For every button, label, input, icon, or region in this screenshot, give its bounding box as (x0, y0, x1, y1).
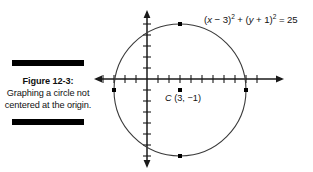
center-label-coordinates: (3, −1) (174, 93, 201, 103)
center-label-letter: C (165, 93, 172, 103)
point-bottom (178, 154, 182, 158)
y-axis-top-arrow (144, 10, 151, 18)
x-axis-right-arrow (276, 76, 284, 83)
x-axis-left-arrow (94, 76, 102, 83)
point-right (244, 88, 248, 92)
axes-group (94, 10, 284, 168)
equation-minus-h: − 3) (212, 14, 231, 25)
caption-rule-top (12, 60, 84, 66)
center-point-label: C (3, −1) (165, 93, 201, 103)
equation-plus-k: + 1) (253, 14, 272, 25)
caption-text: Figure 12-3: Graphing a circle not cente… (0, 75, 96, 111)
plotted-points (112, 22, 248, 158)
point-left (112, 88, 116, 92)
figure-caption-block: Figure 12-3: Graphing a circle not cente… (0, 60, 96, 125)
equation-equals-value: = 25 (276, 14, 297, 25)
circle-equation-label: (x − 3)2 + (y + 1)2 = 25 (204, 14, 298, 25)
y-axis-bottom-arrow (144, 160, 151, 168)
figure-screenshot: Figure 12-3: Graphing a circle not cente… (0, 0, 313, 172)
caption-rule-bottom (12, 119, 84, 125)
coordinate-graph: (x − 3)2 + (y + 1)2 = 25 C (3, −1) (92, 0, 313, 172)
graph-svg (92, 0, 313, 172)
figure-description: Graphing a circle not centered at the or… (0, 87, 96, 111)
figure-number-label: Figure 12-3: (0, 75, 96, 87)
equation-plus-operator: + (235, 14, 246, 25)
point-top (178, 22, 182, 26)
point-center (178, 88, 182, 92)
